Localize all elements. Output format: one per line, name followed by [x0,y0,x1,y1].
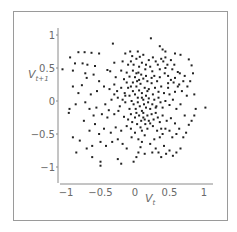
data-point [83,120,85,122]
data-point [113,93,115,95]
data-point [147,101,149,103]
y-tick-label: −0.5 [31,129,55,140]
data-point [124,53,126,55]
data-point [170,79,172,81]
data-point [167,82,169,84]
data-point [155,148,157,150]
data-point [133,64,135,66]
data-point [150,37,152,39]
x-tick-labels: −1−0.500.51 [59,187,208,198]
data-point [164,51,166,53]
data-point [122,99,124,101]
data-point [120,87,122,89]
data-point [160,156,162,158]
data-point [146,115,148,117]
data-point [110,132,112,134]
data-point [164,128,166,130]
data-point [91,52,93,54]
data-point [132,90,134,92]
data-point [103,86,105,88]
data-point [169,130,171,132]
scatter-plot: −1−0.500.51 −1−0.500.51 Vt+1 Vt [0,0,237,232]
data-point [175,108,177,110]
data-point [139,56,141,58]
data-point [120,163,122,165]
data-point [166,120,168,122]
data-point [155,107,157,109]
data-point [123,116,125,118]
data-point [184,75,186,77]
data-point [191,64,193,66]
data-point [135,72,137,74]
data-point [204,107,206,109]
data-point [115,126,117,128]
data-point [122,60,124,62]
data-point [174,53,176,55]
data-point [169,93,171,95]
data-point [103,128,105,130]
data-point [91,156,93,158]
data-point [162,133,164,135]
data-point [135,112,137,114]
data-point [139,105,141,107]
data-point [75,152,77,154]
data-point [142,117,144,119]
data-point [140,74,142,76]
y-tick-label: 0.5 [39,63,55,74]
data-point [96,90,98,92]
data-point [89,130,91,132]
data-point [120,70,122,72]
data-point [137,97,139,99]
data-point [188,58,190,60]
data-point [126,148,128,150]
data-point [151,103,153,105]
data-point [140,146,142,148]
data-point [178,84,180,86]
data-point [90,93,92,95]
data-point [129,76,131,78]
data-point [184,115,186,117]
data-point [112,43,114,45]
data-point [100,161,102,163]
data-point [129,95,131,97]
data-point [130,86,132,88]
data-point [163,92,165,94]
data-point [142,99,144,101]
data-point [72,136,74,138]
data-point [145,64,147,66]
data-point [151,113,153,115]
data-points [62,37,207,166]
data-point [155,112,157,114]
data-point [131,100,133,102]
data-point [171,68,173,70]
data-point [134,132,136,134]
data-point [136,80,138,82]
data-point [140,120,142,122]
data-point [152,125,154,127]
data-point [130,60,132,62]
data-point [69,108,71,110]
data-point [142,112,144,114]
data-point [116,90,118,92]
data-point [173,64,175,66]
data-point [180,103,182,105]
data-point [111,141,113,143]
data-point [130,128,132,130]
data-point [159,76,161,78]
data-point [138,89,140,91]
data-point [98,133,100,135]
data-point [137,51,139,53]
data-point [133,161,135,163]
data-point [186,95,188,97]
data-point [172,155,174,157]
data-point [146,80,148,82]
data-point [151,152,153,154]
data-point [152,56,154,58]
data-point [175,133,177,135]
data-point [149,66,151,68]
data-point [154,87,156,89]
data-point [100,165,102,167]
data-point [164,72,166,74]
data-point [169,104,171,106]
data-point [175,152,177,154]
